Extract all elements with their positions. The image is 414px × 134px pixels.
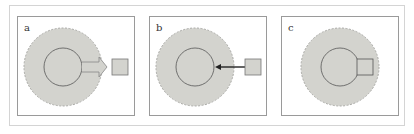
panel-b-diagram [150, 17, 266, 115]
square-node [357, 59, 373, 75]
panel-label: a [24, 23, 30, 33]
inner-circle [176, 48, 214, 86]
inner-circle [321, 48, 359, 86]
panel-c-diagram [282, 17, 398, 115]
panel-a-diagram [18, 17, 134, 115]
inner-circle [44, 48, 82, 86]
square-node [112, 59, 128, 75]
panel-label: c [288, 23, 294, 33]
panel-a: a [17, 16, 135, 116]
panel-c: c [281, 16, 399, 116]
panel-b: b [149, 16, 267, 116]
panel-label: b [156, 23, 162, 33]
square-node [245, 59, 261, 75]
